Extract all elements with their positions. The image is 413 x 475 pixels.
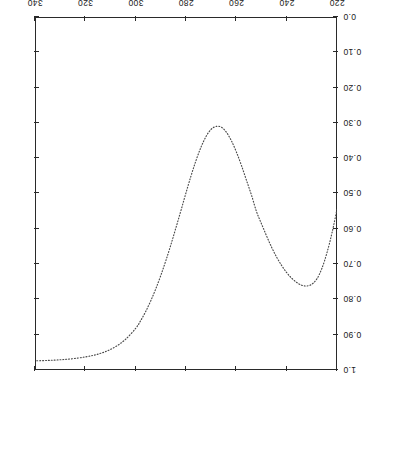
transmittance-tick [34, 51, 39, 52]
plot-area: 220240260280300320340 0.00.100.200.300.4… [35, 17, 337, 370]
wavelength-tick [185, 366, 186, 371]
wavelength-tick [84, 16, 85, 21]
transmittance-tick [34, 334, 39, 335]
transmittance-tick [34, 298, 39, 299]
transmittance-tick-label: 0.20 [343, 83, 368, 93]
wavelength-tick-label: 280 [178, 0, 193, 8]
transmittance-tick-label: 0.80 [343, 294, 368, 304]
transmittance-tick [333, 87, 338, 88]
transmittance-tick [34, 369, 39, 370]
transmittance-tick-label: 1.0 [343, 365, 368, 375]
transmittance-tick [333, 16, 338, 17]
transmittance-tick [333, 193, 338, 194]
transmittance-tick-label: 0.50 [343, 189, 368, 199]
transmittance-tick [34, 122, 39, 123]
transmittance-tick [333, 334, 338, 335]
spectrum-sheet: 5-FLUOROURACIL ETHANOL.....265 220240260… [0, 0, 413, 475]
transmittance-tick [34, 16, 39, 17]
transmittance-tick [34, 157, 39, 158]
wavelength-tick [135, 16, 136, 21]
transmittance-tick-label: 0.10 [343, 47, 368, 57]
transmittance-tick [333, 369, 338, 370]
wavelength-tick [84, 366, 85, 371]
wavelength-tick-label: 240 [279, 0, 294, 8]
transmittance-tick [333, 122, 338, 123]
transmittance-tick [34, 263, 39, 264]
transmittance-tick-label: 0.90 [343, 330, 368, 340]
wavelength-tick-label: 320 [78, 0, 93, 8]
transmittance-tick [34, 228, 39, 229]
wavelength-tick [235, 366, 236, 371]
wavelength-tick-label: 260 [229, 0, 244, 8]
wavelength-tick-label: 340 [27, 0, 42, 8]
transmittance-tick [333, 263, 338, 264]
transmittance-tick-label: 0.0 [343, 12, 368, 22]
transmittance-tick-label: 0.70 [343, 259, 368, 269]
wavelength-tick [185, 16, 186, 21]
transmittance-tick [333, 51, 338, 52]
transmittance-tick [333, 157, 338, 158]
transmittance-tick-label: 0.60 [343, 224, 368, 234]
wavelength-tick [286, 16, 287, 21]
transmittance-tick-label: 0.40 [343, 153, 368, 163]
transmittance-tick [34, 193, 39, 194]
transmittance-tick [34, 87, 39, 88]
wavelength-tick [286, 366, 287, 371]
wavelength-tick-label: 220 [329, 0, 344, 8]
wavelength-tick-label: 300 [128, 0, 143, 8]
transmittance-tick [333, 228, 338, 229]
transmittance-tick [333, 298, 338, 299]
wavelength-tick [235, 16, 236, 21]
transmittance-tick-label: 0.30 [343, 118, 368, 128]
wavelength-tick [135, 366, 136, 371]
transmittance-curve [35, 17, 337, 370]
